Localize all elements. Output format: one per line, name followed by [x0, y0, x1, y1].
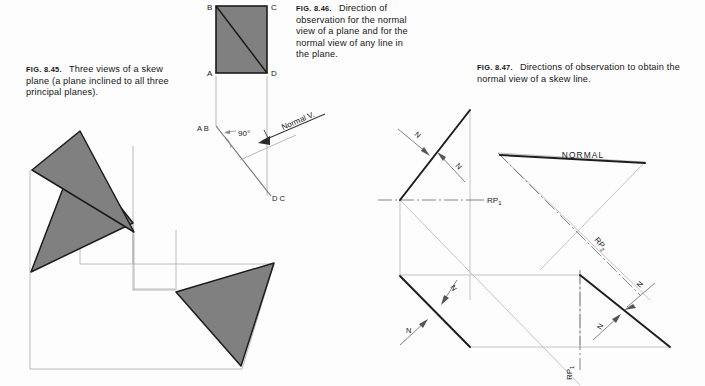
arrow-1-head: [421, 147, 430, 156]
angle-arrowhead: [224, 130, 230, 134]
label-corner-b: B: [207, 3, 212, 12]
label-n-4: N: [406, 326, 411, 335]
label-n-2: N: [454, 161, 464, 171]
label-n-5: N: [635, 279, 645, 289]
skew-line-front-view: [400, 276, 470, 347]
arrow-3-head: [441, 295, 449, 305]
label-rp-3: RP1: [565, 365, 575, 380]
label-angle-90: 90°: [238, 129, 250, 138]
direction-arrow-4: N: [400, 319, 428, 345]
label-n-1: N: [413, 130, 423, 140]
direction-arrow-2: N: [437, 152, 465, 182]
diag-long-down-right: [400, 200, 580, 385]
label-rp-1: RP1: [487, 196, 502, 206]
direction-arrow-6: N: [593, 314, 621, 340]
label-corner-a: A: [207, 69, 213, 78]
side-view-triangle: [176, 263, 274, 366]
skew-line-top-view: [400, 110, 470, 200]
fig-8-47-drawing: NORMAL RP1 RP2 RP1 N: [378, 110, 670, 385]
label-edge-view-dc: D C: [272, 194, 286, 203]
diag-normal-left: [540, 162, 645, 270]
label-rp-2: RP2: [592, 236, 609, 254]
direction-arrow-1: N: [398, 129, 430, 156]
label-edge-view-ab: A B: [197, 124, 209, 133]
skew-line-views: [400, 110, 670, 347]
rp-labels: RP1 RP2 RP1: [470, 196, 609, 380]
normal-direction-arrowhead: [258, 136, 270, 145]
figure-page: FIG. 8.45.Three views of a skew plane (a…: [0, 0, 705, 386]
reference-plane-lines: [378, 153, 640, 370]
fig-8-45-drawing: [30, 131, 274, 369]
label-normal-v: Normal V.: [280, 110, 316, 132]
direction-arrow-3: N: [441, 280, 459, 305]
figures-artwork: B C A D A B D C 90°: [0, 0, 705, 386]
fig-847-construction-lines: [400, 110, 670, 385]
label-corner-c: C: [271, 3, 277, 12]
label-corner-d: D: [271, 69, 277, 78]
skew-line-side-view: [580, 275, 670, 347]
label-normal: NORMAL: [562, 150, 604, 160]
diag-normal-down: [498, 153, 650, 300]
fig-8-46-drawing: B C A D A B D C 90°: [197, 3, 325, 203]
rp2-line: [498, 153, 640, 295]
